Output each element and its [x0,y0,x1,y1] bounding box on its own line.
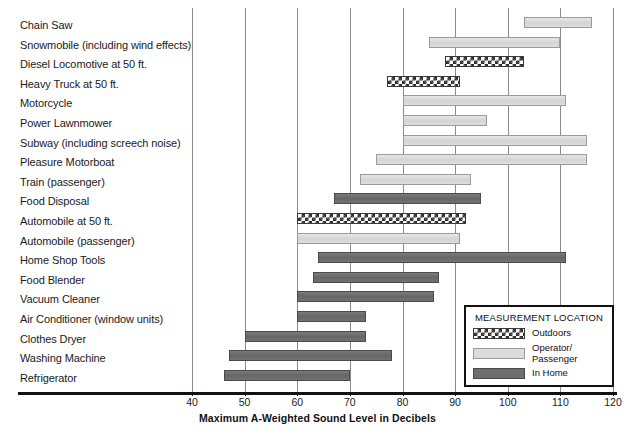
range-bar [376,154,587,165]
legend-entry: Operator/ Passenger [473,343,605,364]
category-axis: Chain SawSnowmobile (including wind effe… [0,0,190,392]
range-bar [360,174,471,185]
x-axis-tick-label: 110 [540,396,580,408]
category-label: Snowmobile (including wind effects) [20,38,184,52]
range-bar [297,233,460,244]
range-bar [445,56,524,67]
range-bar [429,37,561,48]
legend-entry: In Home [473,368,605,379]
legend-swatch-in-home [473,368,525,379]
category-label: Automobile (passenger) [20,234,184,248]
category-label: Food Disposal [20,194,184,208]
range-bar [318,252,565,263]
x-axis-tick-label: 50 [225,396,265,408]
category-label: Home Shop Tools [20,253,184,267]
legend-title: MEASUREMENT LOCATION [473,312,605,323]
x-axis-tick-label: 80 [383,396,423,408]
x-axis-tick-label: 60 [277,396,317,408]
legend-entry: Outdoors [473,328,605,339]
legend-entries: OutdoorsOperator/ PassengerIn Home [473,328,605,379]
range-bar [229,350,392,361]
range-bar [313,272,439,283]
range-bar [297,213,465,224]
gridline [192,8,193,392]
legend-swatch-outdoors [473,328,525,339]
range-bar [245,331,366,342]
x-axis-tick-label: 90 [435,396,475,408]
x-axis-title: Maximum A-Weighted Sound Level in Decibe… [0,412,635,424]
legend-label: Operator/ Passenger [532,343,577,364]
category-label: Pleasure Motorboat [20,155,184,169]
category-label: Food Blender [20,273,184,287]
legend-label: Outdoors [532,328,571,339]
legend-swatch-operator [473,348,525,359]
category-label: Vacuum Cleaner [20,292,184,306]
category-label: Subway (including screech noise) [20,136,184,150]
range-bar [297,291,434,302]
range-bar [524,17,592,28]
category-label: Chain Saw [20,18,184,32]
chart-legend: MEASUREMENT LOCATION OutdoorsOperator/ P… [464,305,614,387]
range-bar [403,95,566,106]
x-axis-tick-label: 120 [593,396,633,408]
range-bar [403,135,587,146]
x-axis-tick-label: 100 [488,396,528,408]
category-label: Power Lawnmower [20,116,184,130]
x-axis-tick-label: 40 [172,396,212,408]
x-axis-tick-label: 70 [330,396,370,408]
x-axis-line [18,392,617,395]
category-label: Motorcycle [20,96,184,110]
category-label: Diesel Locomotive at 50 ft. [20,57,184,71]
range-bar [334,193,481,204]
category-label: Air Conditioner (window units) [20,312,184,326]
sound-level-range-chart: Chain SawSnowmobile (including wind effe… [0,0,635,435]
category-label: Automobile at 50 ft. [20,214,184,228]
category-label: Washing Machine [20,351,184,365]
range-bar [224,370,350,381]
category-label: Clothes Dryer [20,332,184,346]
range-bar [387,76,461,87]
legend-label: In Home [532,368,568,379]
category-label: Heavy Truck at 50 ft. [20,77,184,91]
category-label: Refrigerator [20,371,184,385]
range-bar [403,115,487,126]
range-bar [297,311,365,322]
category-label: Train (passenger) [20,175,184,189]
